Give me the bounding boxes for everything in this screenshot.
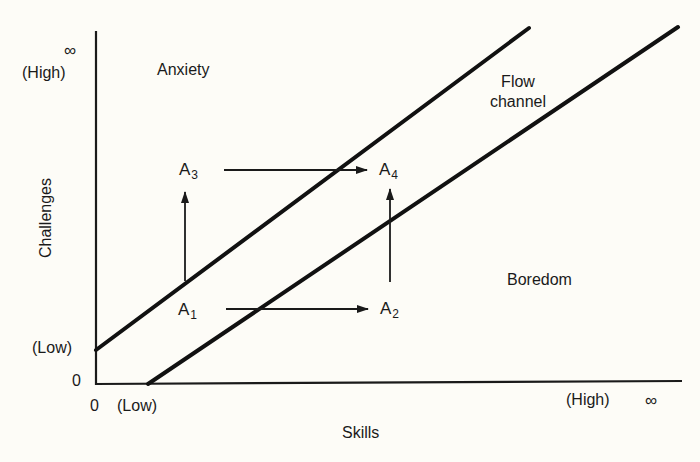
y-high-label: (High) [22, 65, 66, 81]
y-axis-title: Challenges [37, 178, 55, 258]
state-a4: A4 [379, 161, 398, 181]
y-infinity-label: ∞ [64, 42, 76, 59]
state-a2: A2 [380, 300, 399, 320]
state-a3: A3 [179, 161, 198, 181]
region-anxiety-label: Anxiety [157, 62, 209, 78]
state-a4-sub: 4 [391, 168, 398, 182]
x-axis [95, 381, 682, 384]
state-a2-sub: 2 [392, 307, 399, 321]
x-infinity-label: ∞ [645, 392, 657, 409]
state-a3-letter: A [179, 160, 190, 179]
state-a4-letter: A [379, 160, 390, 179]
y-zero-label: 0 [72, 373, 81, 389]
x-low-label: (Low) [117, 398, 157, 414]
state-a1: A1 [178, 301, 197, 321]
x-high-label: (High) [566, 392, 610, 408]
region-flow-label-line2: channel [483, 94, 553, 110]
state-a1-sub: 1 [190, 308, 197, 322]
state-a3-sub: 3 [191, 168, 198, 182]
x-zero-label: 0 [90, 398, 99, 414]
region-boredom-label: Boredom [507, 272, 572, 288]
x-axis-title: Skills [342, 425, 379, 441]
flow-channel-lower-line [148, 27, 678, 384]
state-a2-letter: A [380, 299, 391, 318]
state-a1-letter: A [178, 300, 189, 319]
y-low-label: (Low) [32, 340, 72, 356]
region-flow-label-line1: Flow [483, 74, 553, 90]
